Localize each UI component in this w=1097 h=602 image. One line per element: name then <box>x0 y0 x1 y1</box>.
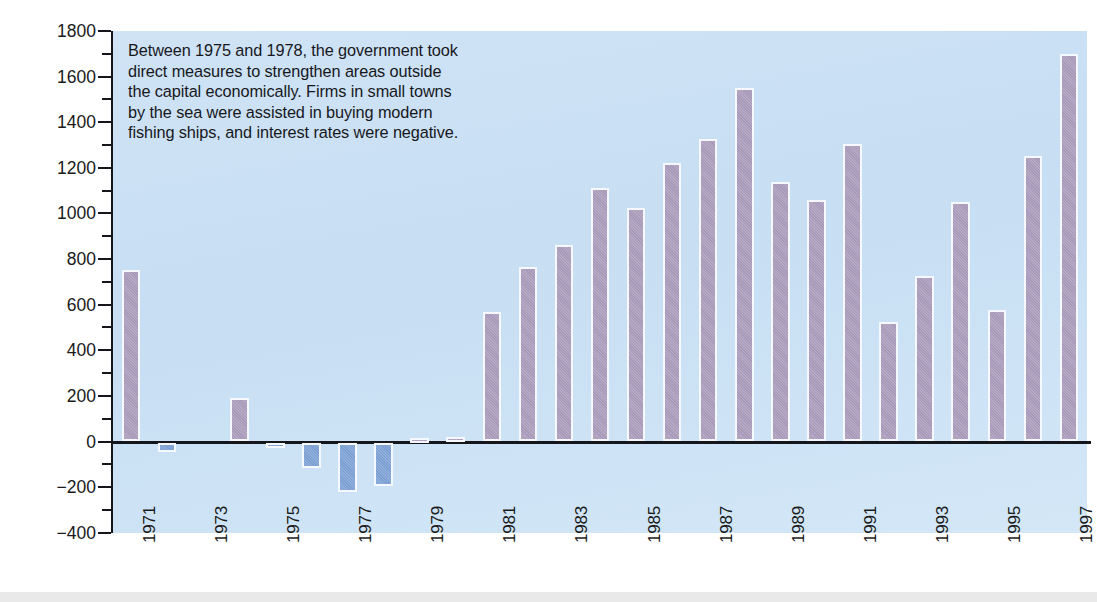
y-axis-minor-tick <box>102 372 111 374</box>
y-axis-tick-label: 400 <box>4 340 96 361</box>
annotation-line-4: by the sea were assisted in buying moder… <box>128 102 548 123</box>
bar-1975 <box>266 443 285 448</box>
y-axis-major-tick <box>98 76 111 78</box>
y-axis-major-tick <box>98 441 111 443</box>
x-axis-tick-label: 1987 <box>717 473 737 543</box>
y-axis-tick-label: 1200 <box>4 157 96 178</box>
bar-1996 <box>1024 156 1043 441</box>
bar-1985 <box>627 208 646 442</box>
y-axis-major-tick <box>98 258 111 260</box>
y-axis-major-tick <box>98 212 111 214</box>
bar-1992 <box>879 322 898 442</box>
bar-1997 <box>1060 54 1079 442</box>
page-bleed-strip <box>0 592 1097 602</box>
bar-1981 <box>483 312 502 442</box>
bar-1993 <box>915 276 934 441</box>
bar-1980 <box>446 437 465 442</box>
x-axis-tick-label: 1995 <box>1005 473 1025 543</box>
x-axis-tick-label: 1997 <box>1077 473 1097 543</box>
y-axis-minor-tick <box>102 144 111 146</box>
annotation-line-2: direct measures to strengthen areas outs… <box>128 61 548 82</box>
y-axis-tick-labels: 180016001400120010008006004002000−200−40… <box>0 0 96 602</box>
y-axis-minor-tick <box>102 463 111 465</box>
x-axis-tick-label: 1975 <box>284 473 304 543</box>
y-axis-major-tick <box>98 167 111 169</box>
y-axis-minor-tick <box>102 418 111 420</box>
y-axis-minor-tick <box>102 190 111 192</box>
bar-1988 <box>735 88 754 441</box>
bar-1989 <box>771 182 790 442</box>
bar-1990 <box>807 200 826 442</box>
y-axis-minor-tick <box>102 235 111 237</box>
y-axis-tick-label: 600 <box>4 294 96 315</box>
y-axis-major-tick <box>98 532 111 534</box>
x-axis-tick-label: 1993 <box>933 473 953 543</box>
annotation-line-3: the capital economically. Firms in small… <box>128 81 548 102</box>
x-axis-tick-label: 1973 <box>212 473 232 543</box>
x-axis-tick-label: 1971 <box>140 473 160 543</box>
y-axis-tick-label: 1400 <box>4 112 96 133</box>
x-axis-tick-label: 1977 <box>356 473 376 543</box>
y-axis-minor-tick <box>102 326 111 328</box>
x-axis-tick-label: 1991 <box>861 473 881 543</box>
bar-1974 <box>230 398 249 441</box>
bar-1971 <box>122 270 141 441</box>
x-axis-tick-label: 1983 <box>572 473 592 543</box>
bar-1984 <box>591 188 610 441</box>
x-axis-tick-label: 1985 <box>645 473 665 543</box>
bar-1986 <box>663 163 682 441</box>
chart-figure: Migrants 1800160014001200100080060040020… <box>0 0 1097 602</box>
annotation-line-5: fishing ships, and interest rates were n… <box>128 122 548 143</box>
annotation-line-1: Between 1975 and 1978, the government to… <box>128 40 548 61</box>
bar-1977 <box>338 443 357 492</box>
bar-1978 <box>374 443 393 486</box>
x-axis-tick-label: 1989 <box>789 473 809 543</box>
bar-1983 <box>555 245 574 441</box>
chart-annotation: Between 1975 and 1978, the government to… <box>128 40 548 143</box>
y-axis-minor-tick <box>102 98 111 100</box>
bar-1979 <box>410 438 429 443</box>
y-axis-tick-label: 800 <box>4 249 96 270</box>
y-axis-major-tick <box>98 349 111 351</box>
y-axis-tick-label: −200 <box>4 477 96 498</box>
bar-1976 <box>302 443 321 468</box>
y-axis-line <box>111 31 113 533</box>
y-axis-major-tick <box>98 304 111 306</box>
y-axis-major-tick <box>98 30 111 32</box>
y-axis-tick-label: 200 <box>4 385 96 406</box>
y-axis-minor-tick <box>102 53 111 55</box>
bar-1991 <box>843 144 862 442</box>
y-axis-tick-label: 0 <box>4 431 96 452</box>
bar-1982 <box>519 267 538 441</box>
y-axis-major-tick <box>98 486 111 488</box>
y-axis-tick-label: 1800 <box>4 21 96 42</box>
x-axis-tick-label: 1979 <box>428 473 448 543</box>
bar-1995 <box>988 310 1007 441</box>
bar-1972 <box>158 443 177 452</box>
y-axis-tick-label: −400 <box>4 522 96 543</box>
y-axis-tick-label: 1600 <box>4 66 96 87</box>
y-axis-tick-label: 1000 <box>4 203 96 224</box>
bar-1987 <box>699 139 718 441</box>
y-axis-major-tick <box>98 121 111 123</box>
x-axis-tick-label: 1981 <box>500 473 520 543</box>
y-axis-minor-tick <box>102 509 111 511</box>
bar-1994 <box>951 202 970 441</box>
y-axis-major-tick <box>98 395 111 397</box>
y-axis-minor-tick <box>102 281 111 283</box>
